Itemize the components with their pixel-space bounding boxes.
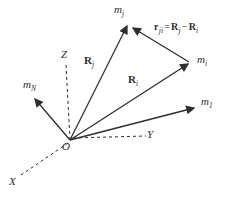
label-vector-Ri: Ri xyxy=(128,74,138,85)
label-equation-rji: rji=Rj−Ri xyxy=(154,22,198,32)
label-mass-N: mN xyxy=(23,79,36,90)
x-axis-dashed-line xyxy=(21,143,68,175)
label-y-axis: Y xyxy=(147,129,153,140)
vector-mN xyxy=(35,99,70,140)
vector-Rj xyxy=(70,26,127,140)
label-z-axis: Z xyxy=(61,49,67,60)
vector-m1 xyxy=(70,108,194,140)
z-axis-dashed-line xyxy=(66,65,70,139)
label-mass-1: m1 xyxy=(201,96,213,107)
label-vector-Rj: Rj xyxy=(84,55,94,66)
label-mass-j: mj xyxy=(114,4,124,15)
vector-diagram: mj mi m1 mN Rj Ri rji=Rj−Ri Z Y X O xyxy=(0,0,226,203)
label-origin: O xyxy=(62,141,70,152)
label-x-axis: X xyxy=(9,176,16,187)
label-mass-i: mi xyxy=(197,54,207,65)
